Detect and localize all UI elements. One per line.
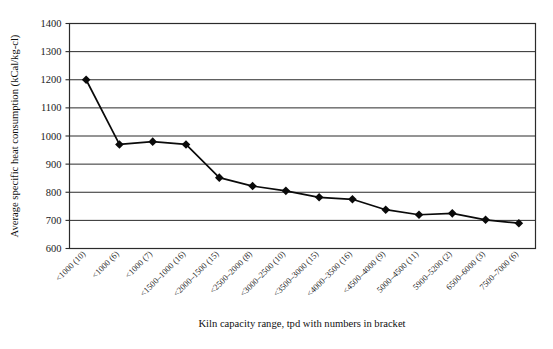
line-chart: 60070080090010001100120013001400 <1000 (… [0,0,553,349]
y-tick-label: 600 [46,243,62,254]
y-tick-label: 1100 [41,102,62,113]
y-tick-label: 700 [46,215,62,226]
chart-container: 60070080090010001100120013001400 <1000 (… [0,0,553,349]
y-tick-label: 1000 [41,131,62,142]
x-axis-title: Kiln capacity range, tpd with numbers in… [198,318,405,329]
y-tick-label: 900 [46,159,62,170]
y-axis-title: Average specific heat consumption (kCal/… [9,34,21,237]
y-tick-label: 1400 [41,18,62,29]
y-tick-label: 1300 [41,46,62,57]
y-tick-label: 800 [46,187,62,198]
y-tick-label: 1200 [41,74,62,85]
